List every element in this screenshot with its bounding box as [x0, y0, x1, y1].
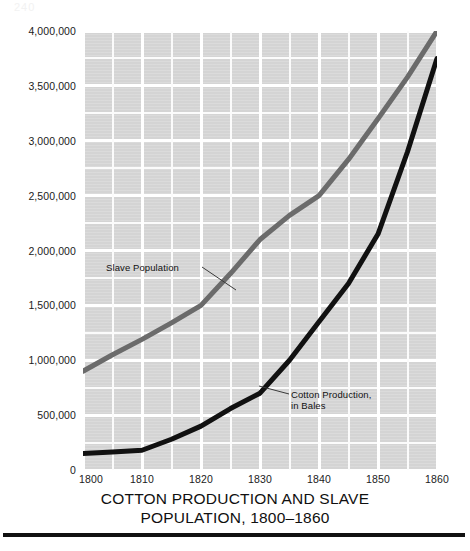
- x-axis-tick-labels: 1800181018201830184018501860: [0, 473, 470, 489]
- x-axis-tick-label: 1850: [366, 473, 390, 485]
- caption-divider-rule: [3, 533, 465, 537]
- x-axis-tick-label: 1820: [189, 473, 213, 485]
- series-line: [83, 31, 437, 371]
- y-axis-tick-label: 4,000,000: [28, 25, 76, 37]
- y-axis-tick-labels: 4,000,0003,500,0003,000,0002,500,0002,00…: [0, 0, 76, 551]
- figure-caption: COTTON PRODUCTION AND SLAVE POPULATION, …: [40, 490, 430, 527]
- caption-line-2: POPULATION, 1800–1860: [40, 509, 430, 528]
- x-axis-tick-label: 1830: [248, 473, 272, 485]
- y-axis-tick-label: 2,000,000: [28, 245, 76, 257]
- x-axis-tick-label: 1800: [79, 473, 103, 485]
- series-line: [83, 58, 437, 453]
- y-axis-tick-label: 2,500,000: [28, 190, 76, 202]
- y-axis-tick-label: 1,500,000: [28, 299, 76, 311]
- series-lines: [83, 31, 437, 470]
- caption-line-1: COTTON PRODUCTION AND SLAVE: [40, 490, 430, 509]
- figure: 240 4,000,0003,500,0003,000,0002,500,000…: [0, 0, 470, 551]
- y-axis-tick-label: 1,000,000: [28, 354, 76, 366]
- x-axis-tick-label: 1860: [425, 473, 449, 485]
- y-axis-tick-label: 3,500,000: [28, 80, 76, 92]
- y-axis-tick-label: 3,000,000: [28, 135, 76, 147]
- annotation-slave-population: Slave Population: [106, 262, 179, 273]
- plot-area: [83, 31, 437, 470]
- x-axis-tick-label: 1810: [130, 473, 154, 485]
- annotation-cotton-production: Cotton Production, in Bales: [291, 389, 372, 411]
- y-axis-tick-label: 500,000: [37, 409, 76, 421]
- x-axis-tick-label: 1840: [307, 473, 331, 485]
